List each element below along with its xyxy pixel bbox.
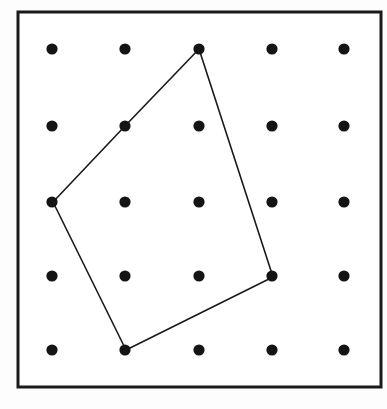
grid-dot	[193, 196, 204, 207]
grid-dot	[338, 270, 349, 281]
grid-dot	[266, 270, 277, 281]
grid-dot	[338, 120, 349, 131]
grid-dot	[46, 270, 57, 281]
grid-dot	[193, 120, 204, 131]
geoboard-figure	[0, 0, 387, 409]
grid-dot	[119, 344, 130, 355]
grid-dot	[46, 344, 57, 355]
grid-dot	[46, 196, 57, 207]
grid-dot	[266, 196, 277, 207]
geoboard-canvas	[0, 0, 387, 409]
grid-dot	[193, 344, 204, 355]
grid-dot	[119, 120, 130, 131]
grid-dot	[338, 196, 349, 207]
grid-dot	[193, 270, 204, 281]
grid-dot	[266, 43, 277, 54]
grid-dot	[46, 120, 57, 131]
grid-dot	[338, 43, 349, 54]
grid-dot	[338, 344, 349, 355]
grid-dot	[119, 196, 130, 207]
grid-dot	[119, 43, 130, 54]
grid-dot	[119, 270, 130, 281]
grid-dot	[266, 120, 277, 131]
grid-dot	[193, 43, 204, 54]
grid-dot	[46, 43, 57, 54]
grid-dot	[266, 344, 277, 355]
